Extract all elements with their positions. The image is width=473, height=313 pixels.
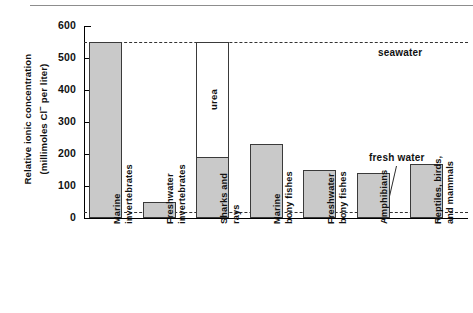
freshwater-label: fresh water	[369, 152, 425, 163]
x-category-label: Marinebony fishes	[272, 134, 295, 224]
y-tick-label-400: 400	[40, 83, 76, 95]
y-tick-label-200: 200	[40, 147, 76, 159]
x-category-line: Freshwater	[165, 173, 175, 224]
x-category-line: rays	[230, 204, 240, 224]
x-category-line: bony fishes	[337, 171, 347, 224]
x-category-label: Freshwaterbony fishes	[326, 134, 349, 224]
bar-chart: Relative ionic concentration (millimoles…	[0, 0, 473, 313]
x-category-label: Sharks andrays	[219, 134, 242, 224]
x-category-line: Amphibians	[379, 170, 389, 224]
x-category-line: Marine	[112, 193, 122, 224]
x-category-line: invertebrates	[177, 164, 187, 224]
x-category-line: and mammals	[444, 161, 454, 224]
urea-label: urea	[207, 85, 218, 113]
y-tick-600	[84, 26, 91, 27]
x-category-label: Reptiles, birds,and mammals	[433, 134, 456, 224]
y-tick-label-0: 0	[40, 211, 76, 223]
y-tick-label-600: 600	[40, 19, 76, 31]
x-category-line: bony fishes	[284, 171, 294, 224]
x-category-line: Reptiles, birds,	[433, 156, 443, 224]
y-tick-0	[84, 218, 91, 219]
x-category-line: Marine	[272, 193, 282, 224]
x-category-line: Sharks and	[219, 173, 229, 224]
y-tick-label-300: 300	[40, 115, 76, 127]
x-category-label: Freshwaterinvertebrates	[165, 134, 188, 224]
x-category-label: Amphibians	[379, 134, 391, 224]
y-tick-label-500: 500	[40, 51, 76, 63]
figure-page: Relative ionic concentration (millimoles…	[0, 0, 473, 313]
y-tick-label-100: 100	[40, 179, 76, 191]
x-category-line: Freshwater	[326, 173, 336, 224]
y-axis-superscript: −	[35, 106, 44, 111]
y-axis-title-line1: Relative ionic concentration	[22, 54, 33, 185]
x-category-line: invertebrates	[123, 164, 133, 224]
seawater-reference-line	[84, 42, 468, 43]
x-category-label: Marineinvertebrates	[112, 134, 135, 224]
seawater-label: seawater	[378, 47, 422, 58]
